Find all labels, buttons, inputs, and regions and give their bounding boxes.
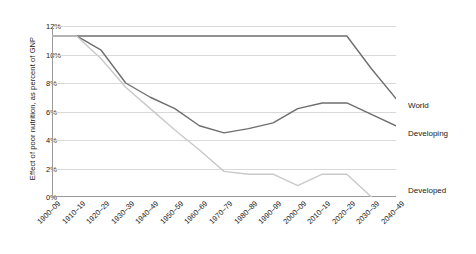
series-line-world (52, 36, 396, 99)
chart-container: Effect of poor nutrition, as percent of … (0, 0, 476, 254)
series-line-developed (52, 36, 371, 197)
x-tick-label: 2040–49 (379, 199, 406, 226)
x-tick-label: 2010–19 (306, 199, 333, 226)
x-tick-label: 2000–09 (281, 199, 308, 226)
series-lines (52, 26, 396, 197)
plot-area (52, 26, 396, 197)
x-tick-label: 2030–39 (355, 199, 382, 226)
series-label-developing: Developing (408, 129, 448, 138)
x-tick-label: 1960–69 (183, 199, 210, 226)
x-axis-tick-labels: 1900–091910–191920–291930–391940–491950–… (52, 199, 396, 251)
series-label-developed: Developed (408, 186, 446, 195)
x-tick-label: 1940–49 (134, 199, 161, 226)
x-tick-label: 1970–79 (207, 199, 234, 226)
x-tick-label: 2020–29 (330, 199, 357, 226)
series-label-world: World (408, 101, 429, 110)
x-tick-label: 1990–99 (256, 199, 283, 226)
series-line-developing (52, 36, 396, 133)
x-tick-label: 1900–09 (35, 199, 62, 226)
x-tick-label: 1930–39 (109, 199, 136, 226)
x-tick-label: 1950–59 (158, 199, 185, 226)
x-tick-label: 1920–29 (84, 199, 111, 226)
y-axis-tick-labels: 0% 2% 4% 6% 8% 10% 12% (0, 26, 50, 197)
x-tick-label: 1910–19 (60, 199, 87, 226)
x-tick-label: 1980–89 (232, 199, 259, 226)
